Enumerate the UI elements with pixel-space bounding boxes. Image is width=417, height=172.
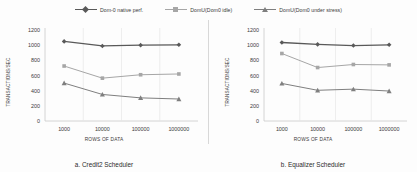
data-point-diamond bbox=[100, 44, 105, 49]
data-point-diamond bbox=[177, 42, 182, 47]
legend-label-native: Dom-0 native perf. bbox=[100, 7, 143, 13]
data-point-square bbox=[387, 63, 391, 67]
data-point-square bbox=[280, 52, 284, 56]
legend-swatch-square-icon bbox=[165, 6, 187, 13]
y-axis-tick-label: 600 bbox=[16, 73, 40, 79]
data-point-diamond bbox=[351, 43, 356, 48]
data-point-triangle bbox=[279, 81, 284, 86]
y-axis-tick-label: 800 bbox=[16, 57, 40, 63]
data-point-diamond bbox=[62, 39, 67, 44]
legend-swatch-diamond-icon bbox=[75, 6, 97, 13]
x-axis-title-left: ROWS OF DATA bbox=[0, 137, 208, 142]
data-point-diamond bbox=[315, 42, 320, 47]
y-axis-tick-label: 200 bbox=[16, 103, 40, 109]
chart-panel-credit2: TRANSACTIONS/SEC 02004006008001000120010… bbox=[0, 22, 208, 172]
x-axis-tick-label: 1000 bbox=[44, 126, 84, 132]
data-point-diamond bbox=[387, 42, 392, 47]
data-point-square bbox=[352, 63, 356, 67]
data-point-square bbox=[101, 76, 105, 80]
data-point-square bbox=[177, 72, 181, 76]
x-axis-tick-label: 10000 bbox=[298, 126, 338, 132]
legend-label-domu-stress: DomU(Dom0 under stress) bbox=[279, 7, 342, 13]
y-axis-tick-label: 1000 bbox=[235, 42, 259, 48]
x-axis-tick-label: 1000000 bbox=[369, 126, 409, 132]
x-axis-title-right: ROWS OF DATA bbox=[209, 137, 417, 142]
legend-entry-domu-idle: DomU(Dom0 idle) bbox=[165, 6, 232, 13]
y-axis-tick-label: 600 bbox=[235, 73, 259, 79]
legend-entry-domu-stress: DomU(Dom0 under stress) bbox=[254, 6, 342, 13]
plot-area-left: 0200400600800100012001000100001000001000… bbox=[0, 22, 208, 147]
y-axis-tick-label: 1200 bbox=[235, 27, 259, 33]
shared-legend: Dom-0 native perf. DomU(Dom0 idle) DomU(… bbox=[0, 6, 417, 13]
y-axis-tick-label: 400 bbox=[235, 88, 259, 94]
x-axis-tick-label: 1000000 bbox=[159, 126, 199, 132]
plot-area-right: 0200400600800100012001000100001000001000… bbox=[209, 22, 417, 147]
data-point-square bbox=[62, 64, 66, 68]
figure-two-line-charts: Dom-0 native perf. DomU(Dom0 idle) DomU(… bbox=[0, 0, 417, 172]
x-axis-tick-label: 10000 bbox=[82, 126, 122, 132]
chart-panel-equalizer: TRANSACTIONS/SEC 02004006008001000120010… bbox=[209, 22, 417, 172]
y-axis-tick-label: 200 bbox=[235, 103, 259, 109]
y-axis-tick-label: 1000 bbox=[16, 42, 40, 48]
y-axis-tick-label: 800 bbox=[235, 57, 259, 63]
y-axis-tick-label: 0 bbox=[235, 118, 259, 124]
data-point-square bbox=[316, 66, 320, 70]
y-axis-tick-label: 0 bbox=[16, 118, 40, 124]
data-point-diamond bbox=[138, 43, 143, 48]
legend-swatch-triangle-icon bbox=[254, 6, 276, 13]
caption-left: a. Credit2 Scheduler bbox=[0, 161, 208, 168]
data-point-square bbox=[139, 73, 143, 77]
data-point-triangle bbox=[62, 81, 67, 86]
caption-right: b. Equalizer Scheduler bbox=[209, 161, 417, 168]
y-axis-tick-label: 400 bbox=[16, 88, 40, 94]
y-axis-tick-label: 1200 bbox=[16, 27, 40, 33]
x-axis-tick-label: 1000 bbox=[262, 126, 302, 132]
legend-label-domu-idle: DomU(Dom0 idle) bbox=[190, 7, 232, 13]
legend-entry-native: Dom-0 native perf. bbox=[75, 6, 143, 13]
data-point-diamond bbox=[280, 40, 285, 45]
x-axis-tick-label: 100000 bbox=[121, 126, 161, 132]
x-axis-tick-label: 100000 bbox=[333, 126, 373, 132]
